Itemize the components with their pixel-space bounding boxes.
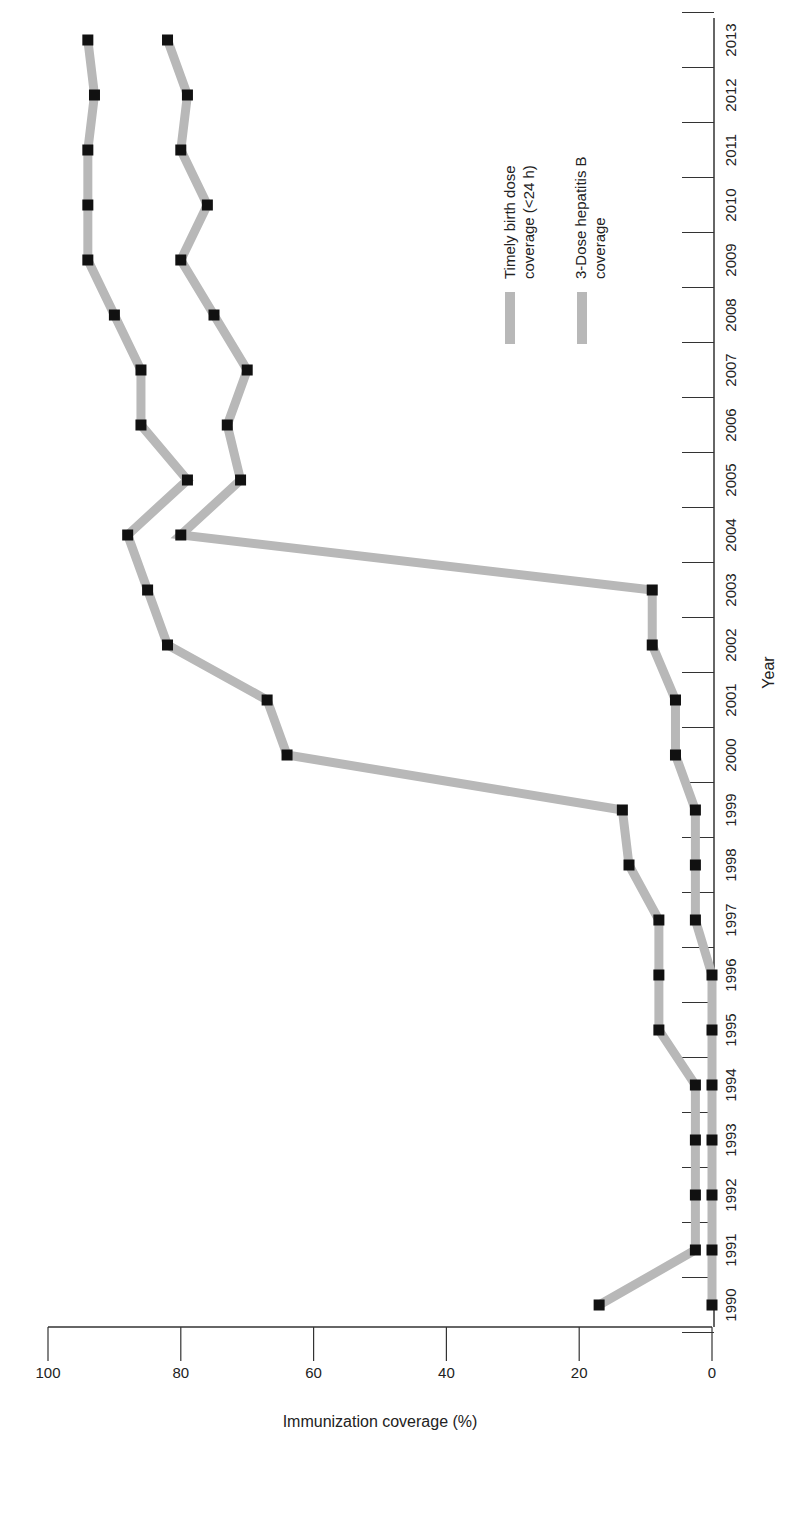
legend-swatch-timely [505,292,515,344]
x-tick-label: 1992 [722,1178,739,1211]
x-tick-label: 2006 [722,408,739,441]
data-point-marker [670,750,681,761]
data-point-marker [82,145,93,156]
legend-label-timely-line2: coverage (<24 h) [520,165,537,279]
x-tick-label: 1991 [722,1233,739,1266]
data-point-marker [670,695,681,706]
x-tick-label: 2010 [722,188,739,221]
data-point-marker [109,310,120,321]
data-point-marker [647,585,658,596]
data-point-marker [122,530,133,541]
legend: Timely birth dose coverage (<24 h) 3-Dos… [501,156,608,344]
chart-rotated-group: 0204060801001990199119921993199419951996… [35,13,777,1431]
data-point-marker [175,530,186,541]
data-point-marker [182,475,193,486]
x-tick-label: 1993 [722,1123,739,1156]
data-point-marker [202,200,213,211]
series-lines [88,40,712,1305]
data-point-marker [617,805,628,816]
data-point-marker [690,805,701,816]
data-point-marker [707,1025,718,1036]
x-axis-label: Year [760,656,777,689]
data-point-marker [142,585,153,596]
data-point-marker [707,1135,718,1146]
data-point-marker [647,640,658,651]
y-tick-label: 20 [571,1364,588,1381]
legend-label-3dose-line1: 3-Dose hepatitis B [572,156,589,279]
data-point-marker [707,970,718,981]
data-point-marker [222,420,233,431]
x-tick-label: 1995 [722,1013,739,1046]
x-tick-label: 2005 [722,463,739,496]
y-tick-label: 0 [708,1364,716,1381]
x-tick-label: 2000 [722,738,739,771]
data-point-marker [653,970,664,981]
data-point-marker [82,35,93,46]
data-point-marker [594,1300,605,1311]
data-point-marker [162,640,173,651]
data-point-marker [175,145,186,156]
data-point-marker [282,750,293,761]
y-axis-label: Immunization coverage (%) [283,1413,478,1430]
series-line-timely-birth-dose [168,40,712,1305]
data-point-marker [162,35,173,46]
x-tick-label: 2001 [722,683,739,716]
data-point-marker [89,90,100,101]
data-point-marker [653,915,664,926]
y-tick-label: 40 [438,1364,455,1381]
data-point-marker [135,420,146,431]
data-point-marker [242,365,253,376]
data-point-marker [262,695,273,706]
data-point-marker [707,1190,718,1201]
y-tick-label: 100 [35,1364,60,1381]
data-point-marker [209,310,220,321]
y-tick-label: 80 [172,1364,189,1381]
x-tick-label: 2002 [722,628,739,661]
axes: 0204060801001990199119921993199419951996… [35,13,739,1382]
data-point-marker [690,1135,701,1146]
x-tick-label: 2004 [722,518,739,551]
data-point-marker [82,200,93,211]
series-markers [82,35,717,1311]
legend-swatch-3dose [577,292,587,344]
x-tick-label: 1994 [722,1068,739,1101]
data-point-marker [690,860,701,871]
data-point-marker [707,1080,718,1091]
y-tick-label: 60 [305,1364,322,1381]
x-tick-label: 2013 [722,23,739,56]
data-point-marker [235,475,246,486]
x-tick-label: 1999 [722,793,739,826]
data-point-marker [135,365,146,376]
line-chart: 0204060801001990199119921993199419951996… [0,0,793,1519]
x-tick-label: 1990 [722,1288,739,1321]
x-tick-label: 2009 [722,243,739,276]
data-point-marker [82,255,93,266]
x-tick-label: 2007 [722,353,739,386]
chart-stage: 0204060801001990199119921993199419951996… [0,0,793,1519]
legend-label-timely-line1: Timely birth dose [501,165,518,279]
x-tick-label: 1997 [722,903,739,936]
data-point-marker [624,860,635,871]
data-point-marker [690,915,701,926]
x-tick-label: 2003 [722,573,739,606]
data-point-marker [653,1025,664,1036]
data-point-marker [707,1245,718,1256]
x-tick-label: 2012 [722,78,739,111]
x-tick-label: 2011 [722,134,739,166]
x-tick-label: 1996 [722,958,739,991]
data-point-marker [707,1300,718,1311]
data-point-marker [175,255,186,266]
legend-label-3dose-line2: coverage [591,217,608,279]
data-point-marker [690,1190,701,1201]
data-point-marker [690,1080,701,1091]
data-point-marker [690,1245,701,1256]
x-tick-label: 1998 [722,848,739,881]
x-tick-label: 2008 [722,298,739,331]
data-point-marker [182,90,193,101]
